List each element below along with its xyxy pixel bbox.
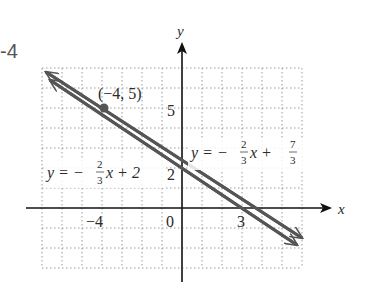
eq1-num: 2	[97, 158, 103, 170]
eq2-den: 3	[241, 154, 247, 166]
graph-figure: -4	[0, 0, 373, 301]
eq2-num: 2	[241, 138, 247, 150]
point-label: (−4, 5)	[98, 85, 142, 103]
y-tick-5: 5	[167, 102, 175, 119]
y-axis-label: y	[175, 23, 184, 39]
eq1-lhs: y = −	[45, 164, 84, 182]
x-tick-0: 0	[166, 213, 174, 230]
point-neg4-5	[100, 104, 109, 113]
eq2-num2: 7	[290, 138, 296, 150]
eq2-lhs: y = −	[189, 144, 228, 162]
coordinate-plane: x y −4 0 3 5 2 (−4, 5) y = − 2 3 x + 2 y…	[0, 0, 373, 301]
eq2-mid: x +	[249, 144, 272, 161]
x-tick-neg4: −4	[86, 213, 103, 230]
x-axis-label: x	[337, 201, 345, 217]
equation-label-1: y = − 2 3 x + 2	[44, 158, 164, 188]
x-tick-3: 3	[237, 213, 245, 230]
eq1-den: 3	[97, 174, 103, 186]
y-tick-2: 2	[167, 166, 175, 183]
eq1-rhs: x + 2	[105, 164, 140, 181]
eq2-den2: 3	[290, 154, 296, 166]
equation-label-2: y = − 2 3 x + 7 3	[188, 138, 306, 170]
